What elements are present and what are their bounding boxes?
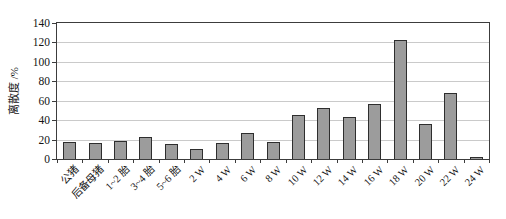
x-tick-label: 18 W — [387, 164, 412, 189]
x-tick-label: 6 W — [238, 164, 259, 185]
x-tick-label: 22 W — [438, 164, 463, 189]
y-tick-mark — [52, 140, 56, 141]
x-tick-mark — [311, 160, 312, 163]
x-tick-label: 5~6 胎 — [154, 164, 183, 193]
x-tick-label: 8 W — [264, 164, 285, 185]
y-tick-mark — [52, 42, 56, 43]
x-tick-mark — [438, 160, 439, 163]
gridline — [57, 81, 489, 82]
y-tick-mark — [52, 101, 56, 102]
y-tick-label: 120 — [10, 34, 50, 50]
y-tick-label: 40 — [10, 112, 50, 128]
x-tick-label: 1~2 胎 — [103, 164, 132, 193]
x-tick-label: 4 W — [213, 164, 234, 185]
x-tick-mark — [209, 160, 210, 163]
plot-area — [56, 22, 490, 160]
bar — [444, 93, 457, 159]
bar — [317, 108, 330, 159]
bar — [139, 137, 152, 159]
x-tick-mark — [464, 160, 465, 163]
gridline — [57, 62, 489, 63]
y-tick-label: 80 — [10, 73, 50, 89]
x-tick-label: 3~4 胎 — [129, 164, 158, 193]
bar — [419, 124, 432, 159]
bar — [470, 157, 483, 159]
x-tick-mark — [82, 160, 83, 163]
x-tick-label: 12 W — [311, 164, 336, 189]
x-tick-mark — [235, 160, 236, 163]
bar — [343, 117, 356, 159]
x-tick-label: 2 W — [187, 164, 208, 185]
y-tick-label: 60 — [10, 93, 50, 109]
x-tick-mark — [57, 160, 58, 163]
bar-chart: 离散度 /% 020406080100120140公猪后备母猪1~2 胎3~4 … — [0, 0, 506, 219]
y-tick-mark — [52, 159, 56, 160]
bar — [114, 141, 127, 159]
x-tick-mark — [184, 160, 185, 163]
x-tick-mark — [260, 160, 261, 163]
bar — [63, 142, 76, 159]
y-tick-mark — [52, 81, 56, 82]
bar — [216, 143, 229, 159]
x-tick-label: 24 W — [463, 164, 488, 189]
x-tick-label: 10 W — [285, 164, 310, 189]
x-tick-label: 16 W — [361, 164, 386, 189]
bar — [292, 115, 305, 159]
bar — [267, 142, 280, 159]
x-tick-mark — [489, 160, 490, 163]
y-tick-label: 0 — [10, 151, 50, 167]
x-tick-label: 20 W — [412, 164, 437, 189]
x-tick-label: 14 W — [336, 164, 361, 189]
y-tick-label: 20 — [10, 132, 50, 148]
x-tick-mark — [133, 160, 134, 163]
x-tick-mark — [337, 160, 338, 163]
x-tick-mark — [362, 160, 363, 163]
bar — [89, 143, 102, 159]
x-tick-mark — [387, 160, 388, 163]
bar — [190, 149, 203, 159]
y-tick-mark — [52, 23, 56, 24]
x-tick-mark — [286, 160, 287, 163]
gridline — [57, 120, 489, 121]
bar — [368, 104, 381, 159]
x-tick-mark — [108, 160, 109, 163]
y-tick-mark — [52, 120, 56, 121]
y-tick-label: 140 — [10, 15, 50, 31]
x-tick-mark — [159, 160, 160, 163]
x-tick-mark — [413, 160, 414, 163]
y-tick-label: 100 — [10, 54, 50, 70]
y-tick-mark — [52, 62, 56, 63]
bar — [165, 144, 178, 159]
gridline — [57, 101, 489, 102]
gridline — [57, 42, 489, 43]
bar — [394, 40, 407, 159]
bar — [241, 133, 254, 159]
